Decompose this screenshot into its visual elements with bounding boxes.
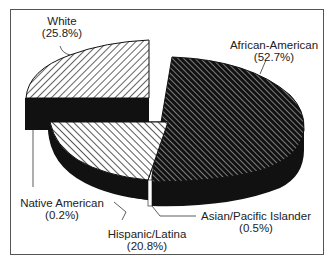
label-white-value: (25.8%)	[34, 27, 90, 39]
label-hispanic-latina-value: (20.8%)	[102, 240, 192, 252]
label-hispanic-latina: Hispanic/Latina (20.8%)	[102, 228, 192, 252]
slice-white	[25, 40, 149, 130]
label-white-name: White	[34, 15, 90, 27]
label-white: White (25.8%)	[34, 15, 90, 39]
label-african-american-value: (52.7%)	[224, 51, 324, 63]
label-african-american-name: African-American	[224, 39, 324, 51]
label-native-american-name: Native American	[16, 197, 108, 209]
label-native-american-value: (0.2%)	[16, 209, 108, 221]
label-african-american: African-American (52.7%)	[224, 39, 324, 63]
slice-asian-pacific-islander	[148, 180, 152, 206]
label-native-american: Native American (0.2%)	[16, 197, 108, 221]
label-asian-pacific-islander-value: (0.5%)	[198, 222, 314, 234]
label-asian-pacific-islander-name: Asian/Pacific Islander	[198, 210, 314, 222]
label-hispanic-latina-name: Hispanic/Latina	[102, 228, 192, 240]
slice-african-american	[152, 57, 304, 206]
label-asian-pacific-islander: Asian/Pacific Islander (0.5%)	[198, 210, 314, 234]
